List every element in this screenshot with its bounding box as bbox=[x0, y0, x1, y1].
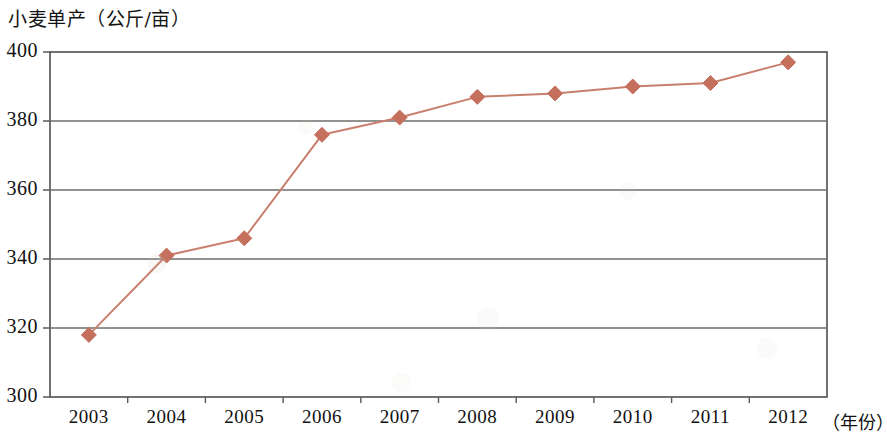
x-axis-tick-label: 2010 bbox=[593, 406, 673, 428]
x-axis-tick-label: 2009 bbox=[515, 406, 595, 428]
x-tick-marks-group bbox=[128, 397, 750, 403]
y-axis-tick-label: 400 bbox=[0, 39, 38, 62]
x-axis-tick-label: 2004 bbox=[127, 406, 207, 428]
y-tick-marks-group bbox=[43, 52, 50, 397]
x-axis-tick-label: 2012 bbox=[748, 406, 828, 428]
y-axis-tick-label: 320 bbox=[0, 315, 38, 338]
plot-frame bbox=[50, 52, 827, 397]
x-axis-tick-label: 2007 bbox=[360, 406, 440, 428]
y-axis-tick-label: 360 bbox=[0, 177, 38, 200]
x-axis-tick-label: 2003 bbox=[49, 406, 129, 428]
y-axis-tick-label: 340 bbox=[0, 246, 38, 269]
y-axis-tick-label: 380 bbox=[0, 108, 38, 131]
x-axis-tick-label: 2011 bbox=[670, 406, 750, 428]
x-axis-tick-label: 2006 bbox=[282, 406, 362, 428]
y-axis-tick-label: 300 bbox=[0, 384, 38, 407]
x-axis-tick-label: 2005 bbox=[204, 406, 284, 428]
x-axis-tick-label: 2008 bbox=[437, 406, 517, 428]
x-axis-unit-label: （年份） bbox=[822, 408, 887, 434]
